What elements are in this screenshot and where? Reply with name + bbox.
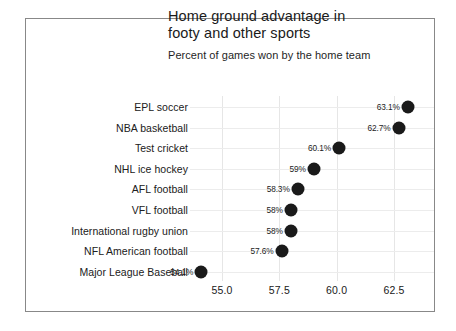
category-label: Test cricket	[18, 142, 188, 154]
data-point-label: 58%	[266, 226, 282, 236]
data-point[interactable]	[291, 183, 304, 196]
data-point-label: 60.1%	[308, 143, 331, 153]
data-point[interactable]	[307, 162, 320, 175]
category-label: AFL football	[18, 183, 188, 195]
category-label: NFL American football	[18, 245, 188, 257]
dot-plot-area: EPL soccerNBA basketballTest cricketNHL …	[0, 0, 456, 331]
y-gridline	[190, 272, 434, 273]
data-point[interactable]	[401, 101, 414, 114]
x-tick-label: 60.0	[326, 284, 347, 296]
data-point[interactable]	[195, 265, 208, 278]
x-tick-label: 57.5	[269, 284, 290, 296]
data-point[interactable]	[284, 224, 297, 237]
data-point[interactable]	[284, 204, 297, 217]
category-label: VFL football	[18, 204, 188, 216]
category-label: International rugby union	[18, 225, 188, 237]
y-gridline	[190, 210, 434, 211]
data-point-label: 58.3%	[267, 184, 290, 194]
data-point-label: 59%	[289, 164, 305, 174]
data-point-label: 57.6%	[251, 246, 274, 256]
category-label: NHL ice hockey	[18, 163, 188, 175]
y-gridline	[190, 189, 434, 190]
category-label: EPL soccer	[18, 101, 188, 113]
x-tick-label: 62.5	[383, 284, 404, 296]
y-gridline	[190, 231, 434, 232]
category-label: Major League Baseball	[18, 266, 188, 278]
data-point-label: 58%	[266, 205, 282, 215]
data-point[interactable]	[332, 142, 345, 155]
category-label: NBA basketball	[18, 122, 188, 134]
data-point[interactable]	[275, 245, 288, 258]
data-point-label: 54.1%	[170, 267, 193, 277]
y-gridline	[190, 251, 434, 252]
data-point-label: 62.7%	[368, 123, 391, 133]
data-point-label: 63.1%	[377, 102, 400, 112]
data-point[interactable]	[392, 121, 405, 134]
x-tick-label: 55.0	[211, 284, 232, 296]
